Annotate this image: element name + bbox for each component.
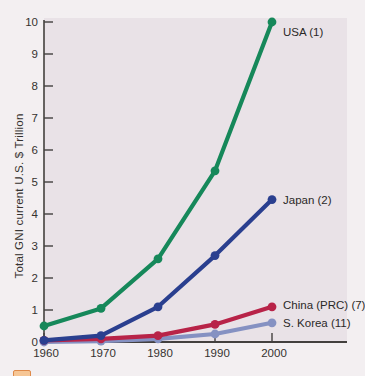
data-point-marker — [211, 251, 220, 260]
data-point-marker — [211, 330, 220, 339]
plot-background — [44, 18, 347, 342]
y-tick-label: 10 — [25, 16, 38, 28]
data-point-marker — [154, 331, 163, 340]
x-tick-label: 1960 — [33, 347, 59, 359]
data-point-marker — [97, 304, 106, 313]
y-tick-label: 2 — [32, 272, 38, 284]
series-label: S. Korea (11) — [283, 317, 351, 329]
y-tick-label: 8 — [32, 80, 38, 92]
y-tick-label: 1 — [32, 304, 38, 316]
x-tick-label: 1970 — [90, 347, 116, 359]
y-tick-label: 3 — [32, 240, 38, 252]
data-point-marker — [40, 322, 49, 331]
y-tick-label: 5 — [32, 176, 38, 188]
y-tick-label: 6 — [32, 144, 38, 156]
y-tick-label: 4 — [32, 208, 39, 220]
data-point-marker — [268, 195, 277, 204]
figure-badge-fragment — [13, 370, 31, 376]
data-point-marker — [40, 336, 49, 345]
data-point-marker — [211, 320, 220, 329]
data-point-marker — [154, 254, 163, 263]
x-tick-label: 1990 — [204, 347, 230, 359]
data-point-marker — [268, 302, 277, 311]
series-label: China (PRC) (7) — [283, 299, 365, 311]
y-tick-label: 7 — [32, 112, 38, 124]
series-label: Japan (2) — [283, 194, 332, 206]
data-point-marker — [211, 166, 220, 175]
gni-line-chart: 01234567891019601970198019902000S. Korea… — [0, 0, 365, 376]
x-tick-label: 1980 — [147, 347, 173, 359]
data-point-marker — [268, 18, 277, 27]
data-point-marker — [268, 318, 277, 327]
data-point-marker — [97, 331, 106, 340]
data-point-marker — [154, 302, 163, 311]
series-label: USA (1) — [283, 26, 323, 38]
x-tick-label: 2000 — [261, 347, 287, 359]
y-axis-label: Total GNI current U.S. $ Trillion — [13, 101, 25, 291]
y-tick-label: 9 — [32, 48, 38, 60]
chart-page: 01234567891019601970198019902000S. Korea… — [0, 0, 365, 376]
